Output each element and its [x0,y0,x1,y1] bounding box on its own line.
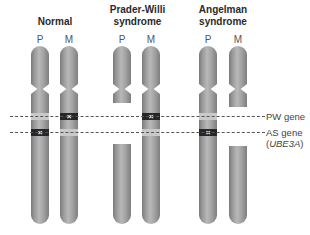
ube3a-gene-name: UBE3A [269,138,300,149]
label-pw-m: M [142,35,160,45]
label-as-m: M [229,35,247,45]
centromere [113,84,131,94]
chromosome-fragment-lower [113,144,131,224]
chromosome-arm-p [113,46,131,84]
chromosome-arm-p [142,46,160,84]
as-gene-label: AS gene (UBE3A) [266,127,304,149]
label-pw-p: P [113,35,131,45]
as-gene-text: AS gene [266,127,302,138]
chromosome-fragment-upper [113,94,131,103]
centromere [60,84,78,94]
chromosome-arm-p [229,46,247,84]
centromere [229,84,247,94]
as-gene-guide-line [10,132,265,133]
group-title-prader-willi: Prader-Willi syndrome [100,4,175,28]
chromosome-arm-p [60,46,78,84]
label-normal-m: M [60,35,78,45]
centromere [31,84,49,94]
chromosome-arm-p [31,46,49,84]
chromosome-fragment-upper [229,94,247,107]
pw-gene-label: PW gene [266,111,305,122]
title-line: syndrome [199,16,247,27]
group-title-angelman: Angelman syndrome [190,4,256,28]
title-line: Angelman [199,4,247,15]
chromosome-fragment-lower [229,146,247,224]
centromere [199,84,217,94]
label-normal-p: P [31,35,49,45]
paren-close: ) [300,138,303,149]
title-line: syndrome [114,16,162,27]
pw-gene-text: PW gene [266,111,305,122]
title-line: Normal [38,16,72,27]
pw-gene-guide-line [10,116,265,117]
centromere [142,84,160,94]
group-title-normal: Normal [30,16,80,28]
label-as-p: P [199,35,217,45]
title-line: Prader-Willi [110,4,165,15]
chromosome-arm-p [199,46,217,84]
